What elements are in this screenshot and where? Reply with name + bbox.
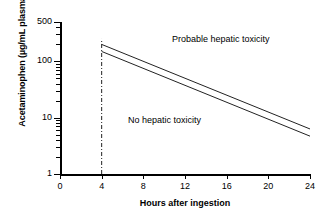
x-tick-label: 8 [128, 182, 158, 191]
x-tick-label: 12 [170, 182, 200, 191]
annotation-probable-hepatic-toxicity: Probable hepatic toxicity [172, 34, 270, 44]
x-tick-label: 24 [295, 182, 325, 191]
plot-area: 110100500 04812162024 Probable hepatic t… [60, 22, 310, 176]
x-tick [310, 174, 311, 179]
x-tick-label: 4 [87, 182, 117, 191]
x-tick-label: 16 [212, 182, 242, 191]
x-tick-label: 20 [253, 182, 283, 191]
annotation-no-hepatic-toxicity: No hepatic toxicity [128, 115, 201, 125]
x-axis-title: Hours after ingestion [60, 198, 310, 208]
y-tick-label: 1 [12, 169, 52, 178]
data-lines-layer [60, 22, 310, 176]
y-tick-label: 100 [12, 56, 52, 65]
y-tick-label: 500 [12, 17, 52, 26]
x-tick-label: 0 [45, 182, 75, 191]
y-tick-label: 10 [12, 113, 52, 122]
nomogram-chart: Acetaminophen (µg/mL plasma) 110100500 0… [0, 0, 328, 218]
